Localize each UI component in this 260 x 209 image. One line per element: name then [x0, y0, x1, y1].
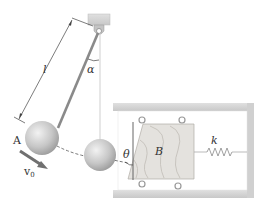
- velocity-subscript: 0: [30, 171, 34, 179]
- alpha-label: α: [87, 63, 95, 76]
- theta-label: θ: [123, 148, 130, 161]
- pendulum-impact-diagram: l α B k θ: [0, 0, 260, 209]
- sphere-a: A: [12, 121, 59, 155]
- sphere-label: A: [12, 134, 22, 147]
- velocity-label: v0: [23, 165, 35, 179]
- velocity-arrow: v0: [20, 151, 48, 179]
- spring-label: k: [211, 134, 218, 147]
- length-label: l: [43, 63, 47, 76]
- alpha-angle: α: [87, 59, 99, 76]
- pendulum-rod: [58, 33, 98, 128]
- block-label: B: [154, 145, 163, 158]
- sphere-impact-position: [84, 139, 116, 171]
- ceiling-support: [88, 14, 110, 35]
